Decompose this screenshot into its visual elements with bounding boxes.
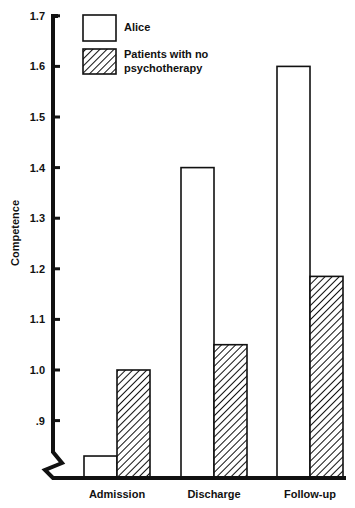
y-tick-label: 1.7 <box>30 10 45 22</box>
y-tick-label: 1.2 <box>30 263 45 275</box>
bar-alice-follow-up <box>277 66 310 478</box>
x-tick-label: Discharge <box>187 488 240 500</box>
y-tick-label: 1.6 <box>30 60 45 72</box>
legend-swatch-patients <box>83 49 116 74</box>
y-axis-ticks: .91.01.11.21.31.41.51.61.7 <box>30 10 60 427</box>
legend: Alice Patients with no psychotherapy <box>83 15 209 74</box>
y-tick-label: 1.0 <box>30 364 45 376</box>
bar-patients-follow-up <box>310 276 343 478</box>
y-tick-label: 1.1 <box>30 313 45 325</box>
legend-label-patients-line1: Patients with no <box>124 48 209 60</box>
y-tick-label: 1.3 <box>30 212 45 224</box>
bar-patients-discharge <box>214 345 247 478</box>
y-tick-label: 1.5 <box>30 111 45 123</box>
bar-alice-admission <box>84 456 117 478</box>
y-tick-label: .9 <box>36 415 45 427</box>
x-tick-label: Follow-up <box>284 488 336 500</box>
legend-label-alice: Alice <box>124 21 150 33</box>
x-tick-label: Admission <box>89 488 146 500</box>
y-tick-label: 1.4 <box>30 162 46 174</box>
bar-alice-discharge <box>181 168 214 478</box>
legend-swatch-alice <box>83 15 116 41</box>
y-axis-label: Competence <box>9 200 21 266</box>
x-axis-tick-labels: AdmissionDischargeFollow-up <box>89 488 336 500</box>
bars <box>53 66 346 478</box>
legend-label-patients-line2: psychotherapy <box>124 62 203 74</box>
bar-patients-admission <box>117 370 150 478</box>
bar-chart: Competence .91.01.11.21.31.41.51.61.7 Ad… <box>0 0 355 508</box>
